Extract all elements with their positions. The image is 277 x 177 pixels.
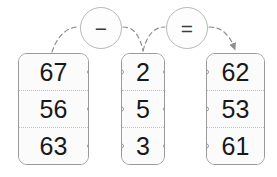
wire-minus-to-middle bbox=[123, 27, 143, 51]
port-left[interactable] bbox=[206, 70, 209, 75]
diagram-canvas: − = 67 56 63 2 5 3 bbox=[0, 0, 277, 177]
wire-left-to-minus bbox=[52, 27, 79, 52]
wire-middle-to-equals bbox=[143, 27, 165, 51]
table-row[interactable]: 53 bbox=[207, 90, 264, 127]
port-right[interactable] bbox=[87, 107, 90, 112]
cell-value: 53 bbox=[221, 97, 249, 122]
table-row[interactable]: 56 bbox=[19, 90, 88, 127]
table-row[interactable]: 67 bbox=[19, 54, 88, 90]
minus-icon: − bbox=[95, 18, 107, 39]
port-right[interactable] bbox=[163, 107, 166, 112]
table-row[interactable]: 62 bbox=[207, 54, 264, 90]
cell-value: 56 bbox=[39, 97, 67, 122]
cell-value: 3 bbox=[136, 134, 150, 159]
cell-value: 62 bbox=[221, 60, 249, 85]
port-right[interactable] bbox=[163, 144, 166, 149]
cell-value: 63 bbox=[39, 134, 67, 159]
cell-value: 2 bbox=[136, 60, 150, 85]
cell-value: 5 bbox=[136, 97, 150, 122]
table-row[interactable]: 2 bbox=[122, 54, 164, 90]
table-row[interactable]: 3 bbox=[122, 127, 164, 164]
table-row[interactable]: 5 bbox=[122, 90, 164, 127]
port-right[interactable] bbox=[163, 70, 166, 75]
port-left[interactable] bbox=[121, 144, 124, 149]
equals-icon: = bbox=[181, 18, 193, 39]
right-number-card[interactable]: 62 53 61 bbox=[206, 53, 265, 165]
port-right[interactable] bbox=[87, 70, 90, 75]
port-right[interactable] bbox=[87, 144, 90, 149]
port-left[interactable] bbox=[121, 70, 124, 75]
left-number-card[interactable]: 67 56 63 bbox=[18, 53, 89, 165]
middle-number-card[interactable]: 2 5 3 bbox=[121, 53, 165, 165]
port-left[interactable] bbox=[206, 144, 209, 149]
cell-value: 61 bbox=[221, 134, 249, 159]
port-left[interactable] bbox=[206, 107, 209, 112]
table-row[interactable]: 63 bbox=[19, 127, 88, 164]
minus-operator[interactable]: − bbox=[80, 7, 122, 49]
port-left[interactable] bbox=[121, 107, 124, 112]
cell-value: 67 bbox=[39, 60, 67, 85]
wire-equals-to-right bbox=[209, 27, 234, 47]
table-row[interactable]: 61 bbox=[207, 127, 264, 164]
equals-operator[interactable]: = bbox=[166, 7, 208, 49]
